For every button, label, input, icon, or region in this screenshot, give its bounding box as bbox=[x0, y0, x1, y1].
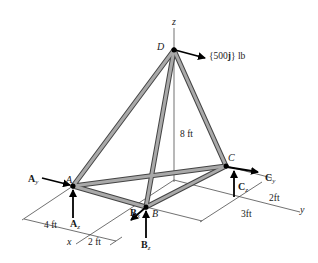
reaction-cy-arrow bbox=[227, 167, 258, 172]
members bbox=[73, 50, 226, 207]
reaction-cy-label: Cy bbox=[265, 172, 276, 185]
member-cd bbox=[174, 50, 226, 166]
labels: z x y D A B C {500j} lb Ay Az Bx Bz Cy C… bbox=[28, 16, 305, 252]
construction-a bbox=[22, 186, 73, 220]
dimension-3ft-label: 3ft bbox=[241, 209, 252, 219]
axis-x-label: x bbox=[66, 236, 72, 247]
member-ab bbox=[73, 186, 146, 207]
dimension-2ft-label: 2 ft bbox=[88, 237, 101, 247]
reaction-bz-label: Bz bbox=[141, 239, 151, 252]
reaction-cz-label: Cz bbox=[238, 181, 248, 194]
point-d-label: D bbox=[156, 41, 165, 52]
reaction-ay-label: Ay bbox=[28, 173, 39, 186]
reaction-az-label: Az bbox=[70, 218, 80, 231]
dimension-height-label: 8 ft bbox=[180, 129, 193, 139]
space-truss-diagram: z x y D A B C {500j} lb Ay Az Bx Bz Cy C… bbox=[0, 0, 318, 263]
load-label: {500j} lb bbox=[209, 51, 246, 61]
reaction-bx-label: Bx bbox=[130, 207, 141, 220]
point-c-label: C bbox=[228, 152, 235, 163]
point-b-label: B bbox=[152, 208, 158, 219]
axis-y-label: y bbox=[299, 204, 305, 215]
dimension-2ft-3ft bbox=[200, 182, 262, 222]
dim-tick-1 bbox=[110, 237, 122, 245]
axis-z-label: z bbox=[171, 16, 176, 27]
member-ad bbox=[73, 50, 174, 186]
dimension-4ft-label: 4 ft bbox=[44, 220, 57, 230]
dimension-c-offset-label: 2ft bbox=[269, 193, 280, 203]
point-a-label: A bbox=[65, 174, 73, 185]
member-bd bbox=[146, 50, 174, 207]
